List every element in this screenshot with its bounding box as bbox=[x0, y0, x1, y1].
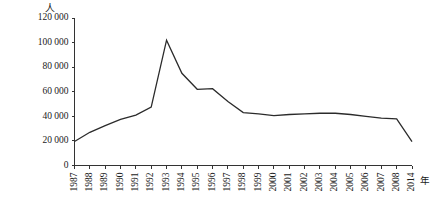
y-tick-label: 100 000 bbox=[38, 37, 69, 47]
x-tick-label: 2000 bbox=[268, 172, 278, 191]
x-axis-unit-label: 年 bbox=[420, 175, 430, 186]
y-axis-unit-label: 人 bbox=[45, 3, 55, 14]
x-tick-label: 2003 bbox=[314, 172, 324, 191]
line-chart-container: 020 00040 00060 00080 000100 000120 000 … bbox=[0, 0, 443, 213]
x-tick-label: 2002 bbox=[299, 172, 309, 191]
y-tick-label: 0 bbox=[64, 160, 69, 170]
x-axis-group: 1987198819891990199119921993199419951996… bbox=[69, 166, 417, 192]
x-tick-label: 1993 bbox=[161, 172, 171, 191]
x-tick-label: 1995 bbox=[191, 172, 201, 191]
x-tick-label: 2005 bbox=[345, 172, 355, 191]
x-tick-label: 2008 bbox=[391, 172, 401, 191]
x-axis-tick-labels: 1987198819891990199119921993199419951996… bbox=[69, 172, 417, 191]
x-tick-label: 1994 bbox=[176, 172, 186, 191]
x-tick-label: 2014 bbox=[406, 172, 416, 191]
x-tick-label: 1991 bbox=[130, 172, 140, 191]
x-tick-label: 1988 bbox=[84, 172, 94, 191]
x-tick-label: 1989 bbox=[99, 172, 109, 191]
x-tick-label: 1996 bbox=[207, 172, 217, 191]
y-axis-group: 020 00040 00060 00080 000100 000120 000 bbox=[38, 12, 75, 170]
chart-canvas: 020 00040 00060 00080 000100 000120 000 … bbox=[0, 0, 443, 213]
y-axis-tick-labels: 020 00040 00060 00080 000100 000120 000 bbox=[38, 12, 69, 170]
x-tick-label: 1990 bbox=[115, 172, 125, 191]
x-tick-label: 1999 bbox=[253, 172, 263, 191]
x-tick-label: 2001 bbox=[283, 172, 293, 191]
y-tick-label: 80 000 bbox=[42, 61, 68, 71]
x-tick-label: 2004 bbox=[329, 172, 339, 191]
y-tick-label: 20 000 bbox=[42, 135, 68, 145]
y-tick-label: 60 000 bbox=[42, 86, 68, 96]
x-tick-label: 1987 bbox=[69, 172, 79, 191]
x-tick-label: 2007 bbox=[376, 172, 386, 191]
x-tick-label: 1997 bbox=[222, 172, 232, 191]
x-tick-label: 2006 bbox=[360, 172, 370, 191]
y-tick-label: 40 000 bbox=[42, 111, 68, 121]
data-series-line bbox=[75, 40, 413, 141]
x-tick-label: 1992 bbox=[145, 172, 155, 191]
x-tick-label: 1998 bbox=[237, 172, 247, 191]
